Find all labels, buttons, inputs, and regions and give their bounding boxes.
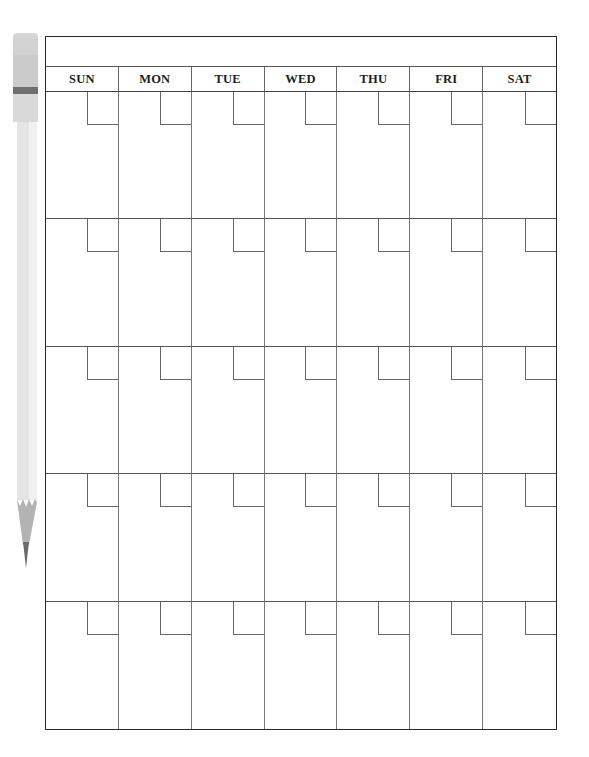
date-box[interactable]	[305, 219, 336, 252]
date-box[interactable]	[160, 92, 191, 125]
date-box[interactable]	[233, 219, 264, 252]
pencil-icon	[0, 0, 45, 757]
date-box[interactable]	[378, 347, 409, 380]
date-box[interactable]	[451, 219, 482, 252]
date-box[interactable]	[378, 92, 409, 125]
day-cell[interactable]	[337, 602, 410, 729]
date-box[interactable]	[233, 347, 264, 380]
date-box[interactable]	[378, 219, 409, 252]
weekday-header: SUN MON TUE WED THU FRI SAT	[46, 67, 556, 92]
date-box[interactable]	[525, 347, 556, 380]
date-box[interactable]	[451, 347, 482, 380]
day-cell[interactable]	[483, 347, 556, 474]
date-box[interactable]	[378, 474, 409, 507]
day-cell[interactable]	[265, 474, 338, 601]
day-header-tue: TUE	[192, 67, 265, 91]
day-cell[interactable]	[410, 347, 483, 474]
day-cell[interactable]	[265, 602, 338, 729]
day-header-thu: THU	[337, 67, 410, 91]
day-cell[interactable]	[337, 92, 410, 219]
date-box[interactable]	[160, 474, 191, 507]
date-box[interactable]	[451, 602, 482, 635]
day-cell[interactable]	[119, 219, 192, 346]
date-box[interactable]	[525, 219, 556, 252]
date-box[interactable]	[305, 347, 336, 380]
day-cell[interactable]	[337, 474, 410, 601]
date-box[interactable]	[451, 474, 482, 507]
day-cell[interactable]	[265, 219, 338, 346]
date-box[interactable]	[233, 602, 264, 635]
date-box[interactable]	[305, 474, 336, 507]
date-box[interactable]	[87, 474, 118, 507]
day-cell[interactable]	[410, 92, 483, 219]
date-box[interactable]	[160, 602, 191, 635]
day-header-sun: SUN	[46, 67, 119, 91]
date-box[interactable]	[525, 602, 556, 635]
date-box[interactable]	[87, 602, 118, 635]
date-box[interactable]	[525, 474, 556, 507]
day-cell[interactable]	[265, 347, 338, 474]
day-cell[interactable]	[410, 474, 483, 601]
date-box[interactable]	[305, 92, 336, 125]
date-box[interactable]	[87, 347, 118, 380]
day-cell[interactable]	[410, 219, 483, 346]
date-box[interactable]	[160, 219, 191, 252]
date-box[interactable]	[233, 92, 264, 125]
day-cell[interactable]	[119, 602, 192, 729]
day-cell[interactable]	[483, 219, 556, 346]
date-box[interactable]	[233, 474, 264, 507]
day-cell[interactable]	[192, 92, 265, 219]
day-cell[interactable]	[46, 219, 119, 346]
day-cell[interactable]	[119, 347, 192, 474]
day-header-fri: FRI	[410, 67, 483, 91]
month-title[interactable]	[46, 37, 556, 67]
day-header-wed: WED	[265, 67, 338, 91]
day-cell[interactable]	[46, 347, 119, 474]
day-cell[interactable]	[46, 92, 119, 219]
date-box[interactable]	[87, 92, 118, 125]
day-cell[interactable]	[46, 602, 119, 729]
day-cell[interactable]	[483, 602, 556, 729]
day-cell[interactable]	[192, 219, 265, 346]
day-cell[interactable]	[192, 602, 265, 729]
date-box[interactable]	[451, 92, 482, 125]
day-header-mon: MON	[119, 67, 192, 91]
day-cell[interactable]	[265, 92, 338, 219]
date-box[interactable]	[525, 92, 556, 125]
date-box[interactable]	[87, 219, 118, 252]
day-header-sat: SAT	[483, 67, 556, 91]
day-cell[interactable]	[192, 474, 265, 601]
day-cell[interactable]	[192, 347, 265, 474]
calendar-grid	[46, 92, 556, 729]
date-box[interactable]	[305, 602, 336, 635]
day-cell[interactable]	[410, 602, 483, 729]
day-cell[interactable]	[46, 474, 119, 601]
day-cell[interactable]	[483, 92, 556, 219]
day-cell[interactable]	[337, 219, 410, 346]
day-cell[interactable]	[119, 92, 192, 219]
day-cell[interactable]	[483, 474, 556, 601]
calendar: SUN MON TUE WED THU FRI SAT	[45, 36, 557, 730]
date-box[interactable]	[160, 347, 191, 380]
date-box[interactable]	[378, 602, 409, 635]
day-cell[interactable]	[337, 347, 410, 474]
day-cell[interactable]	[119, 474, 192, 601]
